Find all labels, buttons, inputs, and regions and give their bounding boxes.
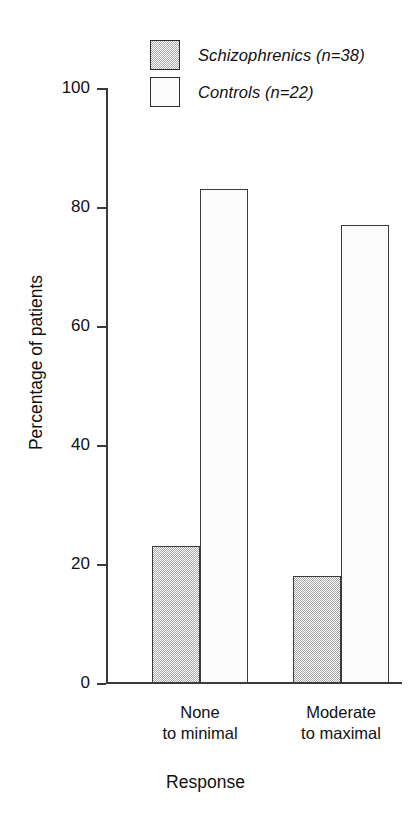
x-group-label-none-to-minimal: None to minimal: [120, 702, 280, 744]
y-tick-label-0: 0: [38, 674, 90, 691]
bar-chart-figure: Schizophrenics (n=38) Controls (n=22) 10…: [0, 0, 411, 816]
legend-label-schizophrenics: Schizophrenics (n=38): [198, 46, 365, 65]
legend-label-controls: Controls (n=22): [198, 83, 314, 102]
x-group-label-line2: to maximal: [261, 723, 411, 744]
y-tick-label-20: 20: [38, 555, 90, 572]
y-axis-line: [106, 88, 108, 684]
x-group-label-line2: to minimal: [120, 723, 280, 744]
y-tick-label-80: 80: [38, 198, 90, 215]
bar-schizophrenics-moderate-to-maximal: [293, 576, 341, 683]
y-tick-label-100: 100: [38, 79, 90, 96]
y-axis-title: Percentage of patients: [26, 243, 47, 483]
bar-schizophrenics-none-to-minimal: [152, 546, 200, 683]
legend-swatch-schizophrenics: [150, 40, 180, 70]
x-group-label-moderate-to-maximal: Moderate to maximal: [261, 702, 411, 744]
bar-controls-none-to-minimal: [200, 189, 248, 683]
legend-item-controls: Controls (n=22): [150, 75, 405, 109]
x-group-label-line1: Moderate: [261, 702, 411, 723]
x-group-label-line1: None: [120, 702, 280, 723]
chart-legend: Schizophrenics (n=38) Controls (n=22): [150, 38, 405, 112]
x-axis-title: Response: [0, 772, 411, 793]
legend-item-schizophrenics: Schizophrenics (n=38): [150, 38, 405, 72]
legend-swatch-controls: [150, 77, 180, 107]
bar-controls-moderate-to-maximal: [341, 225, 389, 683]
